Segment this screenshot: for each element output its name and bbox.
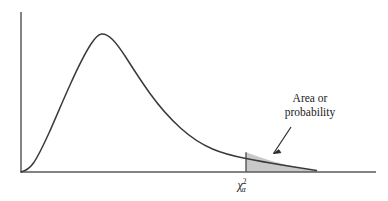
critical-value-label: χ2α bbox=[236, 177, 246, 194]
annotation-line-2: probability bbox=[285, 106, 336, 119]
chi-subscript: α bbox=[242, 185, 247, 194]
figure-canvas: Area or probability χ2α bbox=[0, 0, 388, 201]
chi-square-distribution-figure: Area or probability χ2α bbox=[0, 0, 388, 201]
annotation-line-1: Area or bbox=[293, 92, 328, 104]
annotation-arrow bbox=[274, 127, 292, 156]
chi-square-density-curve bbox=[21, 34, 317, 172]
